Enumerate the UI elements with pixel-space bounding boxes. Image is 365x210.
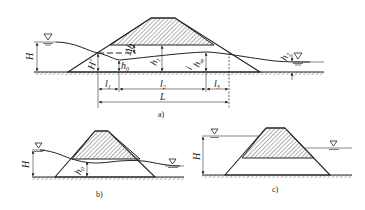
water-level-upstream-icon [43, 34, 53, 45]
label-L: L [159, 91, 166, 102]
caption-a: a) [158, 110, 165, 119]
label-l1: l1 [105, 78, 111, 90]
label-H: H [24, 52, 35, 61]
label-H-prime: H' [85, 58, 99, 72]
label-H: H [191, 152, 202, 161]
label-h2: h2 [278, 51, 292, 63]
label-l2: l2 [160, 78, 166, 90]
panel-a: H H' h0 Δh h1 hm i h2 l1 l2 l3 [24, 18, 324, 119]
label-hm: hm [191, 55, 206, 69]
water-level-downstream-icon [293, 53, 303, 65]
caption-c: c) [272, 185, 279, 194]
caption-b: b) [96, 190, 103, 199]
panel-b: H h0 b) [20, 131, 184, 199]
dam-hatched-core [110, 18, 214, 45]
label-h0: h0 [121, 60, 129, 72]
label-l3: l3 [214, 78, 220, 90]
label-H: H [20, 160, 31, 169]
panel-c: H c) [191, 128, 352, 194]
label-h0: h0 [72, 165, 86, 177]
diagram-canvas: H H' h0 Δh h1 hm i h2 l1 l2 l3 [0, 0, 365, 210]
